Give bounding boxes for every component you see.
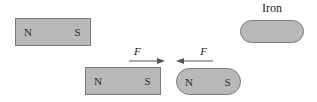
bar-magnet-bottom-right: N S: [176, 68, 241, 95]
bar-magnet-bottom-left: N S: [85, 67, 161, 95]
force-arrow-left-group: F: [129, 45, 165, 67]
iron-bar: [240, 20, 304, 43]
arrow-right-icon: [129, 57, 165, 65]
force-arrow-right-group: F: [176, 45, 213, 67]
pole-label-south: S: [144, 76, 151, 87]
pole-label-south: S: [224, 76, 231, 87]
arrow-left-icon: [176, 57, 213, 65]
physics-figure: N S Iron F F N S N S: [0, 0, 317, 102]
force-label-left: F: [134, 45, 141, 57]
pole-label-north: N: [94, 76, 102, 87]
pole-label-south: S: [74, 27, 81, 38]
force-label-right: F: [200, 45, 207, 57]
pole-label-north: N: [185, 76, 193, 87]
pole-label-north: N: [24, 27, 32, 38]
iron-label: Iron: [240, 1, 304, 16]
bar-magnet-top-left: N S: [15, 18, 91, 46]
